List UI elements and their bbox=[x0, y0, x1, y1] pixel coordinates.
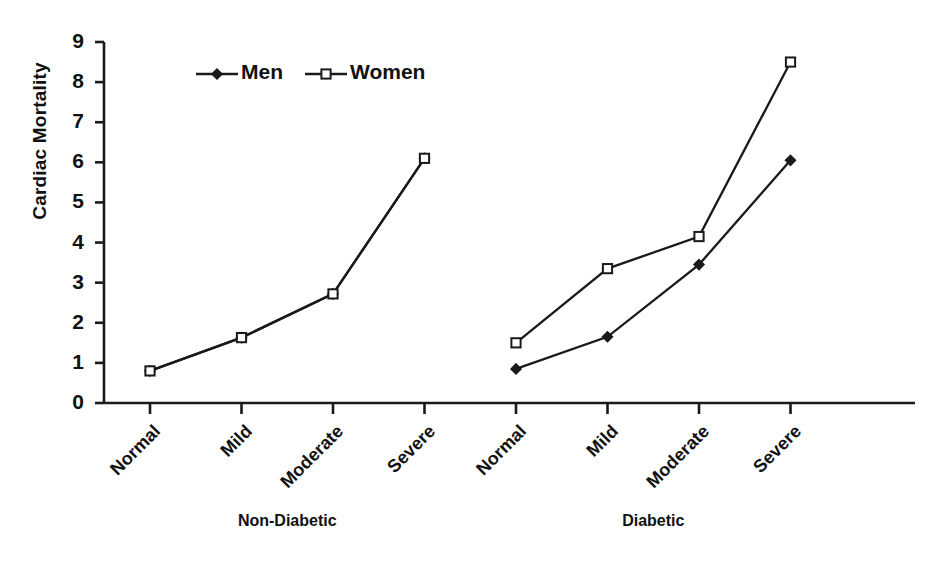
marker-women-severe-d bbox=[786, 57, 795, 66]
marker-women-mild-nd bbox=[237, 333, 246, 342]
marker-women-mild-d bbox=[603, 264, 612, 273]
legend-marker-men-diamond-icon bbox=[212, 69, 222, 79]
marker-men-normal-d bbox=[511, 364, 521, 374]
legend-label-men: Men bbox=[241, 60, 283, 84]
line-men-seg1 bbox=[516, 160, 791, 369]
marker-women-moderate-nd bbox=[328, 289, 337, 298]
plot-area bbox=[0, 0, 930, 569]
legend-label-women: Women bbox=[350, 60, 425, 84]
marker-women-severe-nd bbox=[420, 154, 429, 163]
marker-women-normal-d bbox=[511, 338, 520, 347]
marker-women-moderate-d bbox=[694, 232, 703, 241]
line-men-seg0 bbox=[150, 158, 425, 371]
line-women-seg0 bbox=[150, 158, 425, 371]
cardiac-mortality-line-chart: Cardiac Mortality 0123456789 NormalMildM… bbox=[0, 0, 930, 569]
series-women bbox=[145, 57, 795, 375]
data-series bbox=[145, 57, 796, 376]
marker-women-normal-nd bbox=[145, 366, 154, 375]
axes bbox=[95, 42, 915, 414]
legend-marker-women-square-icon bbox=[321, 69, 330, 78]
